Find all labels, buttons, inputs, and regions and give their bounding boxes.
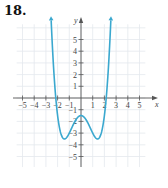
x-tick-label: 5 bbox=[138, 101, 142, 110]
y-tick-label: 5 bbox=[73, 36, 77, 45]
function-graph: xy−5−4−3−2−112345−5−4−3−2−112345 bbox=[0, 0, 168, 188]
x-tick-label: 4 bbox=[126, 101, 130, 110]
y-axis-arrow-icon bbox=[79, 17, 83, 23]
curve-arrow-icon bbox=[49, 16, 54, 20]
curve-arrow-icon bbox=[109, 16, 114, 20]
y-tick-label: 1 bbox=[73, 82, 77, 91]
x-axis-label: x bbox=[154, 100, 159, 109]
x-tick-label: −3 bbox=[42, 101, 51, 110]
y-tick-label: 4 bbox=[73, 47, 77, 56]
y-tick-label: 3 bbox=[73, 59, 77, 68]
y-tick-label: 2 bbox=[73, 71, 77, 80]
y-tick-label: −1 bbox=[68, 106, 77, 115]
x-tick-label: 1 bbox=[91, 101, 95, 110]
x-tick-label: −4 bbox=[30, 101, 39, 110]
y-tick-label: −5 bbox=[68, 153, 77, 162]
x-tick-label: −5 bbox=[18, 101, 27, 110]
y-axis-label: y bbox=[73, 16, 78, 25]
y-tick-label: −4 bbox=[68, 141, 77, 150]
x-tick-label: 3 bbox=[114, 101, 118, 110]
tick-labels: xy−5−4−3−2−112345−5−4−3−2−112345 bbox=[18, 16, 159, 162]
